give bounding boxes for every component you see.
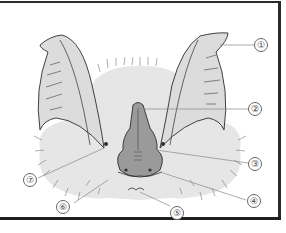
callout-1: ① <box>254 38 268 52</box>
callout-7: ⑦ <box>23 173 37 187</box>
bat-head-illustration <box>0 0 286 233</box>
callout-3: ③ <box>248 157 262 171</box>
callout-4: ④ <box>247 194 261 208</box>
left-eye <box>104 142 108 146</box>
callout-6: ⑥ <box>56 200 70 214</box>
callout-2: ② <box>248 102 262 116</box>
right-eye <box>161 142 165 146</box>
callout-5: ⑤ <box>170 206 184 220</box>
